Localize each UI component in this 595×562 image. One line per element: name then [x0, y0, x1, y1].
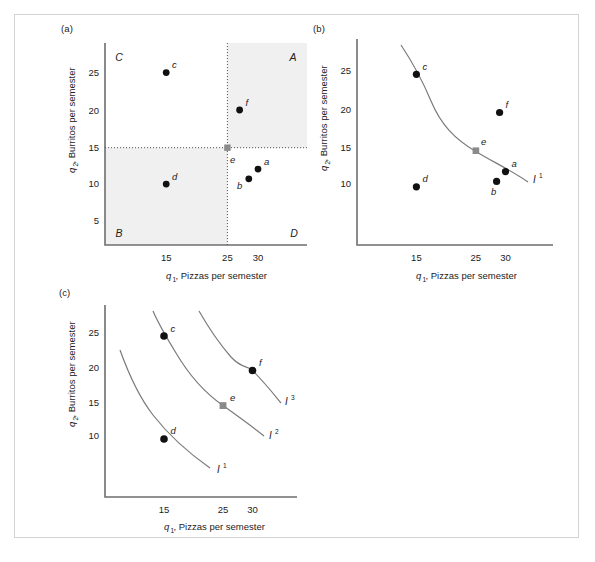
quadrant-label-a: A	[288, 51, 296, 63]
point-c-marker	[413, 71, 420, 78]
curve-label-i3-sup: 3	[291, 394, 295, 401]
y-tick-25: 25	[88, 327, 99, 338]
panel-c-axes	[105, 305, 297, 497]
x-tick-30: 30	[500, 252, 511, 263]
panel-b-x-ticks: 15 25 30	[411, 252, 511, 263]
point-c-marker	[163, 69, 170, 76]
curve-label-i1-letter: I	[217, 464, 220, 475]
y-tick-20: 20	[340, 104, 351, 115]
point-a-label: a	[512, 158, 517, 169]
point-d-label: d	[172, 171, 178, 182]
curve-label-i1-sup: 1	[223, 462, 227, 469]
y-tick-15: 15	[88, 142, 99, 153]
indifference-curve-i1	[120, 350, 210, 468]
point-b-marker	[493, 178, 500, 185]
y-tick-10: 10	[88, 430, 99, 441]
panel-c-tag: (c)	[59, 287, 70, 298]
panel-c: (c) 10 15 20 25 15 25 30 I 1	[47, 287, 327, 535]
point-d-label: d	[423, 173, 429, 184]
point-a-marker	[502, 168, 509, 175]
panel-a-tag: (a)	[61, 23, 73, 34]
point-e-marker	[473, 147, 480, 154]
point-a-marker	[255, 166, 262, 173]
point-e-marker	[224, 145, 230, 151]
y-tick-25: 25	[340, 65, 351, 76]
point-b-label: b	[237, 180, 242, 191]
panel-a: (a) 5 10 15 20 25 15 25 30	[61, 23, 321, 285]
x-axis-title-text: , Pizzas per semester	[174, 521, 265, 532]
quadrant-label-c: C	[115, 51, 123, 63]
curve-label-i1: I 1	[533, 172, 543, 185]
quadrant-label-d: D	[290, 227, 298, 239]
x-axis-title-q: q	[164, 521, 170, 532]
point-e-marker	[220, 402, 227, 409]
panel-a-x-axis-title: q 1 , Pizzas per semester	[166, 270, 267, 283]
x-tick-25: 25	[471, 252, 482, 263]
panel-b-y-ticks: 10 15 20 25	[340, 65, 351, 189]
panel-c-y-ticks: 10 15 20 25	[88, 327, 99, 441]
point-d-label: d	[171, 425, 177, 436]
y-axis-title-text: , Burritos per semester	[318, 65, 329, 161]
y-tick-15: 15	[340, 142, 351, 153]
curve-label-i3: I 3	[285, 394, 295, 407]
panel-c-y-axis-title: q 2 , Burritos per semester	[66, 321, 79, 427]
point-a-label: a	[264, 156, 269, 167]
curve-label-i2-sup: 2	[275, 428, 279, 435]
curve-label-i1-sup: 1	[539, 172, 543, 179]
point-c-label: c	[171, 323, 176, 334]
indifference-curve-i3	[199, 311, 281, 403]
panel-b-plot: 10 15 20 25 15 25 30 I 1 c f	[313, 23, 571, 285]
y-tick-15: 15	[88, 397, 99, 408]
curve-label-i1: I 1	[217, 462, 227, 475]
x-tick-30: 30	[247, 504, 258, 515]
panel-a-plot: 5 10 15 20 25 15 25 30 A B C D c	[61, 23, 321, 285]
panel-a-y-axis-title: q 2 , Burritos per semester	[66, 67, 79, 173]
point-f-label: f	[506, 99, 510, 110]
panel-a-x-ticks: 15 25 30	[161, 252, 263, 263]
y-tick-5: 5	[94, 215, 99, 226]
y-tick-25: 25	[88, 67, 99, 78]
point-f-label: f	[259, 357, 263, 368]
x-tick-15: 15	[159, 504, 170, 515]
panel-b-y-axis-title: q 2 , Burritos per semester	[318, 65, 331, 171]
curve-label-i1-letter: I	[533, 174, 536, 185]
y-axis-title-q: q	[318, 165, 329, 171]
x-axis-title-text: , Pizzas per semester	[426, 270, 517, 281]
x-axis-title-text: , Pizzas per semester	[176, 270, 267, 281]
indifference-curve-i1	[401, 45, 528, 182]
point-c-marker	[160, 332, 168, 340]
x-tick-15: 15	[411, 252, 422, 263]
point-b-label: b	[491, 186, 496, 197]
panel-c-x-axis-title: q 1 , Pizzas per semester	[164, 521, 265, 534]
curve-label-i2: I 2	[269, 428, 279, 441]
curve-label-i3-letter: I	[285, 396, 288, 407]
x-tick-25: 25	[218, 504, 229, 515]
curve-label-i2-letter: I	[269, 430, 272, 441]
point-d-marker	[413, 183, 420, 190]
y-tick-10: 10	[340, 178, 351, 189]
point-e-label: e	[230, 392, 235, 403]
point-e-label: e	[481, 136, 486, 147]
point-b-marker	[245, 175, 252, 182]
figure-frame: (a) 5 10 15 20 25 15 25 30	[14, 14, 579, 538]
y-axis-title-q: q	[66, 421, 77, 427]
point-f-marker	[496, 109, 503, 116]
y-axis-title-text: , Burritos per semester	[66, 321, 77, 417]
panel-b-axes	[357, 39, 553, 245]
y-tick-10: 10	[88, 178, 99, 189]
point-d-marker	[160, 435, 168, 443]
y-axis-title-text: , Burritos per semester	[66, 67, 77, 163]
panel-c-x-ticks: 15 25 30	[159, 504, 258, 515]
panel-b-tag: (b)	[313, 23, 325, 34]
y-tick-20: 20	[88, 105, 99, 116]
x-axis-title-q: q	[416, 270, 422, 281]
quadrant-label-b: B	[115, 227, 122, 239]
y-axis-title-q: q	[66, 167, 77, 173]
point-d-marker	[163, 181, 170, 188]
point-c-label: c	[423, 61, 428, 72]
point-c-label: c	[172, 59, 177, 70]
point-f-marker	[236, 107, 243, 114]
x-tick-30: 30	[253, 252, 264, 263]
panel-a-y-ticks: 5 10 15 20 25	[88, 67, 99, 226]
point-f-marker	[249, 367, 257, 375]
